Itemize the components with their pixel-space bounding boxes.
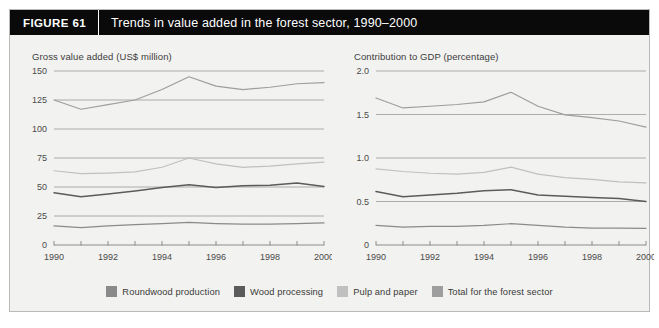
legend-swatch-icon (432, 286, 443, 297)
series-line (54, 77, 324, 109)
legend-swatch-icon (234, 286, 245, 297)
x-axis-tick-label: 2000 (314, 252, 332, 262)
y-axis-tick-label: 2.0 (356, 66, 369, 76)
y-axis-tick-label: 150 (32, 66, 47, 76)
x-axis-tick-label: 1998 (260, 252, 280, 262)
series-line (376, 224, 646, 229)
figure-number-label: FIGURE 61 (10, 17, 98, 29)
series-line (376, 92, 646, 127)
y-axis-tick-label: 50 (37, 182, 47, 192)
chart-left-plot-area: 0255075100125150199019921994199619982000 (20, 65, 332, 275)
y-axis-tick-label: 125 (32, 95, 47, 105)
legend-label: Roundwood production (122, 287, 220, 297)
chart-svg: 00.51.01.52.0199019921994199619982000 (342, 65, 654, 275)
chart-right-plot-area: 00.51.01.52.0199019921994199619982000 (342, 65, 654, 275)
series-line (376, 167, 646, 183)
y-axis-tick-label: 0 (42, 240, 47, 250)
legend-swatch-icon (106, 286, 117, 297)
x-axis-tick-label: 1992 (420, 252, 440, 262)
x-axis-tick-label: 1990 (44, 252, 64, 262)
legend-label: Pulp and paper (353, 287, 417, 297)
y-axis-tick-label: 100 (32, 124, 47, 134)
y-axis-tick-label: 75 (37, 153, 47, 163)
legend-label: Total for the forest sector (448, 287, 553, 297)
x-axis-tick-label: 2000 (636, 252, 654, 262)
x-axis-tick-label: 1990 (366, 252, 386, 262)
chart-gross-value-added: Gross value added (US$ million) 02550751… (20, 35, 332, 283)
series-line (54, 183, 324, 197)
series-line (54, 222, 324, 227)
legend-item: Pulp and paper (337, 286, 417, 297)
series-line (54, 158, 324, 174)
x-axis-tick-label: 1994 (474, 252, 494, 262)
chart-left-subtitle: Gross value added (US$ million) (32, 51, 172, 62)
legend-label: Wood processing (250, 287, 323, 297)
y-axis-tick-label: 25 (37, 211, 47, 221)
x-axis-tick-label: 1996 (206, 252, 226, 262)
chart-svg: 0255075100125150199019921994199619982000 (20, 65, 332, 275)
x-axis-tick-label: 1998 (582, 252, 602, 262)
chart-legend: Roundwood productionWood processingPulp … (10, 286, 649, 297)
x-axis-tick-label: 1994 (152, 252, 172, 262)
figure-header-bar: FIGURE 61 Trends in value added in the f… (10, 10, 649, 35)
legend-item: Total for the forest sector (432, 286, 553, 297)
x-axis-tick-label: 1992 (98, 252, 118, 262)
x-axis-tick-label: 1996 (528, 252, 548, 262)
figure-title: Trends in value added in the forest sect… (99, 16, 417, 30)
charts-row: Gross value added (US$ million) 02550751… (10, 35, 649, 283)
chart-contribution-to-gdp: Contribution to GDP (percentage) 00.51.0… (342, 35, 654, 283)
legend-swatch-icon (337, 286, 348, 297)
figure-container: FIGURE 61 Trends in value added in the f… (9, 9, 650, 312)
y-axis-tick-label: 0.5 (356, 197, 369, 207)
chart-right-subtitle: Contribution to GDP (percentage) (354, 51, 499, 62)
legend-item: Roundwood production (106, 286, 220, 297)
y-axis-tick-label: 1.0 (356, 153, 369, 163)
y-axis-tick-label: 1.5 (356, 110, 369, 120)
series-line (376, 190, 646, 202)
y-axis-tick-label: 0 (364, 240, 369, 250)
legend-item: Wood processing (234, 286, 323, 297)
